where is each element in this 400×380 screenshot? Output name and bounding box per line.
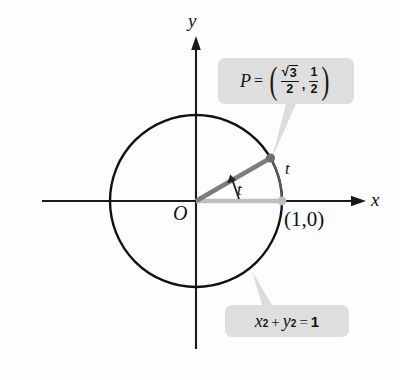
equation-equals: = [299, 314, 307, 331]
radical-sign: √ [282, 65, 289, 78]
equation-rhs: 1 [311, 313, 319, 330]
x-coordinate-denominator: 2 [286, 82, 293, 97]
point-one-zero-label: (1,0) [284, 207, 324, 232]
arc-t [271, 158, 283, 201]
y-coordinate-numerator: 1 [309, 66, 318, 82]
point-p-formula: P = ( √ 3 2 , 1 2 ) [240, 65, 332, 97]
x-coordinate-numerator: √ 3 [281, 65, 299, 82]
arc-t-label: t [285, 159, 290, 179]
y-axis-arrowhead [191, 36, 201, 50]
x-coordinate-fraction: √ 3 2 [281, 65, 299, 97]
angle-t-label: t [237, 180, 242, 200]
equation-plus: + [271, 314, 279, 331]
y-axis-label: y [188, 10, 196, 32]
open-paren: ( [269, 66, 277, 96]
leader-line-point-p [272, 104, 296, 158]
equation-x-var: x [255, 311, 263, 332]
unit-circle-figure: y x O (1,0) t t P = ( √ 3 2 , 1 2 [0, 0, 400, 380]
circle-equation-formula: x2 + y2 = 1 [255, 311, 319, 332]
p-variable: P [240, 72, 251, 90]
x-axis-arrowhead [351, 196, 366, 206]
point-one-zero-marker [278, 197, 287, 206]
point-p-marker [266, 153, 275, 162]
y-coordinate-denominator: 2 [310, 82, 317, 97]
callout-circle-equation: x2 + y2 = 1 [225, 305, 349, 337]
equation-y-var: y [283, 311, 291, 332]
y-coordinate-fraction: 1 2 [309, 66, 318, 96]
close-paren: ) [322, 66, 330, 96]
callout-point-p: P = ( √ 3 2 , 1 2 ) [218, 58, 354, 104]
radicand: 3 [289, 65, 298, 80]
sqrt-icon: √ 3 [282, 65, 298, 80]
leader-line-equation [252, 271, 272, 305]
p-equals-sign: = [254, 73, 263, 89]
origin-label: O [173, 202, 187, 225]
x-axis-label: x [371, 189, 379, 211]
coordinate-comma: , [302, 78, 306, 91]
